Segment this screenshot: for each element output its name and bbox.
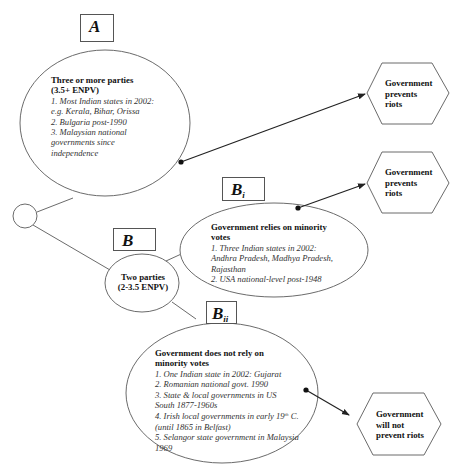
node-b-title-line1: Two parties (110, 272, 176, 282)
tag-bii-subscript: ii (223, 314, 228, 324)
node-bi-title-line1: Government relies on minority (211, 222, 361, 232)
node-b-title-line2: (2-3.5 ENPV) (110, 282, 176, 292)
node-bii-title-line2: minority votes (155, 358, 305, 368)
outcome-bii-line: Government (376, 409, 440, 420)
arrow-bi-to-outcome (298, 184, 365, 208)
node-a-title-line2: (3.5+ ENPV) (51, 85, 181, 95)
root-node (13, 204, 37, 228)
tag-bi-subscript: i (242, 190, 245, 200)
outcome-bi-line: riots (385, 188, 445, 199)
outcome-bii-line: prevent riots (376, 430, 440, 441)
node-bi-text: Government relies on minority votes 1. T… (211, 222, 361, 284)
connector-b-to-bii (172, 302, 196, 319)
outcome-bi-text: Government prevents riots (385, 167, 445, 199)
arrow-bi-origin-dot (295, 205, 300, 210)
node-a-item: governments since (51, 137, 181, 147)
node-bii-text: Government does not rely on minority vot… (155, 348, 305, 453)
node-bi-item: 2. USA national-level post-1948 (211, 274, 361, 284)
node-bi-item: 1. Three Indian states in 2002: (211, 243, 361, 253)
tag-a-label: A (89, 17, 100, 36)
node-bii-item: (until 1865 in Belfast) (155, 422, 305, 432)
node-bii-item: 1969 (155, 443, 305, 453)
node-bii-item: 5. Selangor state government in Malaysia (155, 432, 305, 442)
outcome-a-line: prevents (385, 89, 445, 100)
outcome-a-text: Government prevents riots (385, 78, 445, 110)
node-a-item: e.g. Kerala, Bihar, Orissa (51, 106, 181, 116)
outcome-bii-line: will not (376, 420, 440, 431)
tag-bi: Bi (222, 177, 265, 201)
node-a-item: independence (51, 148, 181, 158)
node-bi-item: Rajasthan (211, 264, 361, 274)
outcome-bi-line: Government (385, 167, 445, 178)
node-bii-title-line1: Government does not rely on (155, 348, 305, 358)
tag-b: B (113, 228, 156, 251)
tag-bii-label: B (212, 304, 223, 323)
node-bii-item: 2. Romanian national govt. 1990 (155, 379, 305, 389)
node-a-title-line1: Three or more parties (51, 75, 181, 85)
outcome-a-line: riots (385, 99, 445, 110)
tag-bi-label: B (231, 180, 242, 199)
node-bii-item: South 1877-1960s (155, 400, 305, 410)
node-a-item: 3. Malaysian national (51, 127, 181, 137)
node-bii-item: 4. Irish local governments in early 19th… (155, 410, 305, 421)
arrow-a-to-outcome (181, 94, 365, 162)
node-bii-item: 3. State & local governments in US (155, 390, 305, 400)
node-bi-title-line2: votes (211, 232, 361, 242)
tag-b-label: B (122, 231, 133, 250)
arrow-a-origin-dot (178, 159, 183, 164)
node-bi-item: Andhra Pradesh, Madhya Pradesh, (211, 253, 361, 263)
outcome-a-line: Government (385, 78, 445, 89)
node-a-text: Three or more parties (3.5+ ENPV) 1. Mos… (51, 75, 181, 158)
connector-root-to-b (33, 225, 110, 270)
node-b-text: Two parties (2-3.5 ENPV) (110, 272, 176, 293)
node-bii-item: 1. One Indian state in 2002: Gujarat (155, 369, 305, 379)
node-bii-item-suffix: C. (289, 411, 299, 421)
connector-root-to-a (37, 198, 73, 212)
tag-bii: Bii (206, 301, 237, 324)
node-bii-item-text: 4. Irish local governments in early 19 (155, 411, 285, 421)
outcome-bii-text: Government will not prevent riots (376, 409, 440, 441)
outcome-bi-line: prevents (385, 178, 445, 189)
tag-a: A (80, 14, 114, 42)
node-a-item: 1. Most Indian states in 2002: (51, 96, 181, 106)
node-a-item: 2. Bulgaria post-1990 (51, 117, 181, 127)
